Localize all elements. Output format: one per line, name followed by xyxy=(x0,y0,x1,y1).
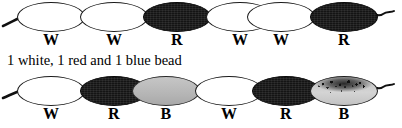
bead-label-bottom-6: B xyxy=(310,104,378,124)
bead-top-6 xyxy=(310,2,378,32)
strand-bottom: W R B W R B xyxy=(0,74,402,124)
bead-top-5 xyxy=(247,2,315,32)
bead-texture-speckle xyxy=(311,77,377,105)
bead-label-top-3: R xyxy=(143,30,211,50)
bead-top-2 xyxy=(80,2,148,32)
bead-bottom-3 xyxy=(132,76,200,106)
figure-caption: 1 white, 1 red and 1 blue bead xyxy=(7,50,182,70)
bead-label-top-2: W xyxy=(80,30,148,50)
bead-label-row-bottom: W R B W R B xyxy=(0,104,402,124)
bead-label-row-top: W W R W W R xyxy=(0,30,402,50)
bead-label-top-5: W xyxy=(247,30,315,50)
bead-label-top-6: R xyxy=(310,30,378,50)
bead-row-top xyxy=(0,0,402,34)
bead-label-bottom-3: B xyxy=(132,104,200,124)
bead-pattern-figure: W W R W W R 1 white, 1 red and 1 blue be… xyxy=(0,0,402,128)
bead-label-top-1: W xyxy=(17,30,85,50)
bead-bottom-6 xyxy=(310,76,378,106)
bead-top-1 xyxy=(17,2,85,32)
bead-row-bottom xyxy=(0,74,402,108)
bead-bottom-1 xyxy=(17,76,85,106)
bead-label-bottom-1: W xyxy=(17,104,85,124)
bead-top-3 xyxy=(143,2,211,32)
strand-top: W W R W W R xyxy=(0,0,402,50)
